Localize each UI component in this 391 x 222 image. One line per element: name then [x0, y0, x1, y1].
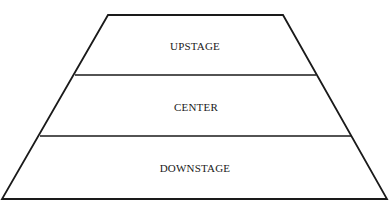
section-label-upstage: UPSTAGE	[170, 40, 220, 52]
section-label-downstage: DOWNSTAGE	[160, 162, 231, 174]
section-label-center: CENTER	[174, 101, 218, 113]
